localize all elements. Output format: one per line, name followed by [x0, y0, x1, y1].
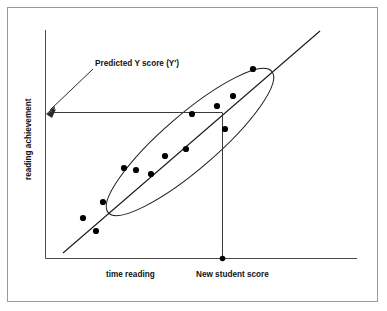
data-point: [148, 171, 154, 177]
predicted-label-leader-line: [50, 69, 93, 110]
data-point: [80, 215, 86, 221]
data-point: [133, 167, 139, 173]
new-student-score-label: New student score: [196, 270, 269, 279]
data-point: [93, 228, 99, 234]
new-student-axis-marker: [220, 256, 226, 262]
data-point: [100, 199, 106, 205]
data-point: [183, 146, 189, 152]
data-point: [214, 103, 220, 109]
scatter-plot: Predicted Y score (Y') time reading New …: [0, 0, 387, 311]
y-axis-label: reading achievement: [24, 98, 33, 180]
data-point: [162, 153, 168, 159]
data-point: [230, 93, 236, 99]
data-point: [189, 111, 195, 117]
figure-container: Predicted Y score (Y') time reading New …: [0, 0, 387, 311]
confidence-ellipse: [91, 51, 290, 233]
data-point: [250, 66, 256, 72]
x-axis-label: time reading: [106, 270, 155, 279]
data-point: [121, 165, 127, 171]
predicted-y-score-label: Predicted Y score (Y'): [95, 59, 179, 68]
data-point: [222, 126, 228, 132]
